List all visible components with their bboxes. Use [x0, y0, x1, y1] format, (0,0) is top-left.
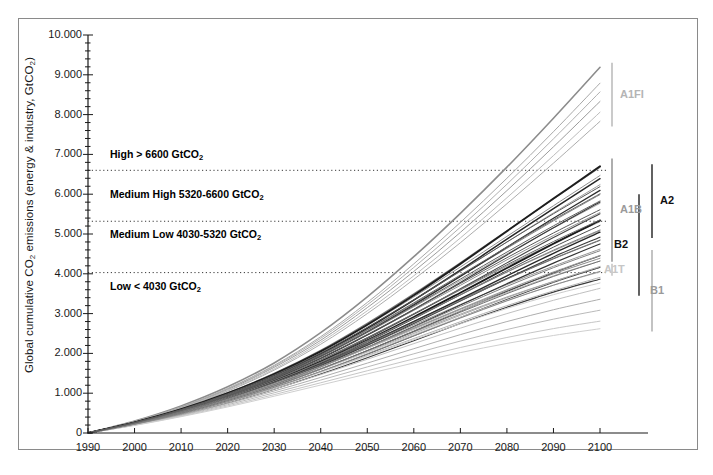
x-tick-label-2050: 2050	[345, 441, 389, 453]
y-tick-label-5000: 5.000	[26, 227, 82, 239]
x-tick-label-2000: 2000	[113, 441, 157, 453]
family-label-B2: B2	[614, 238, 628, 250]
band-label-high: High > 6600 GtCO2	[110, 148, 203, 162]
scenario-curve	[88, 231, 600, 433]
x-tick-label-2010: 2010	[159, 441, 203, 453]
y-tick-label-6000: 6.000	[26, 187, 82, 199]
chart-svg	[0, 0, 713, 475]
x-tick-label-1990: 1990	[66, 441, 110, 453]
x-tick-label-2060: 2060	[392, 441, 436, 453]
y-tick-label-0: 0	[26, 426, 82, 438]
figure-caption	[20, 462, 700, 473]
band-label-medium-high: Medium High 5320-6600 GtCO2	[110, 188, 264, 202]
band-label-low: Low < 4030 GtCO2	[110, 280, 201, 294]
x-tick-label-2040: 2040	[299, 441, 343, 453]
scenario-curve	[88, 67, 600, 433]
y-tick-label-8000: 8.000	[26, 108, 82, 120]
family-label-A1B: A1B	[620, 203, 642, 215]
plot-area	[0, 0, 713, 475]
y-tick-label-10000: 10.000	[26, 28, 82, 40]
x-tick-label-2100: 2100	[578, 441, 622, 453]
figure-root: Global cumulative CO2 emissions (energy …	[0, 0, 713, 475]
band-label-medium-low: Medium Low 4030-5320 GtCO2	[110, 228, 261, 242]
y-tick-label-7000: 7.000	[26, 147, 82, 159]
y-tick-label-3000: 3.000	[26, 307, 82, 319]
scenario-curve	[88, 175, 600, 433]
scenario-curve	[88, 190, 600, 433]
scenario-curve	[88, 166, 600, 433]
x-tick-label-2080: 2080	[485, 441, 529, 453]
scenario-curve	[88, 237, 600, 433]
x-tick-label-2030: 2030	[252, 441, 296, 453]
scenario-curve	[88, 179, 600, 433]
scenario-curve	[88, 220, 600, 433]
family-label-A1FI: A1FI	[620, 88, 644, 100]
x-tick-label-2020: 2020	[206, 441, 250, 453]
family-label-A1T: A1T	[604, 263, 625, 275]
family-label-A2: A2	[660, 194, 674, 206]
scenario-curve	[88, 214, 600, 433]
family-label-B1: B1	[650, 284, 664, 296]
y-tick-label-2000: 2.000	[26, 346, 82, 358]
y-tick-label-4000: 4.000	[26, 267, 82, 279]
y-tick-label-9000: 9.000	[26, 68, 82, 80]
scenario-curve	[88, 187, 600, 433]
y-tick-label-1000: 1.000	[26, 386, 82, 398]
x-tick-label-2070: 2070	[438, 441, 482, 453]
x-tick-label-2090: 2090	[531, 441, 575, 453]
